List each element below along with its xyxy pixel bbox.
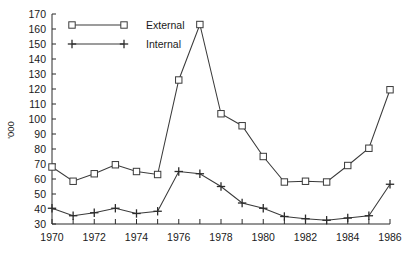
data-point-marker (197, 21, 203, 27)
y-tick-label: 160 (28, 23, 46, 35)
data-point-marker (259, 204, 267, 212)
x-tick-label: 1976 (167, 231, 191, 243)
x-axis-group: 197019721974197619781980198219841986 (40, 219, 402, 243)
series-line-external (52, 25, 390, 183)
data-point-marker (153, 207, 161, 215)
y-tick-label: 80 (34, 143, 46, 155)
y-tick-label: 70 (34, 158, 46, 170)
data-point-marker (49, 164, 55, 170)
data-point-marker (196, 170, 204, 178)
data-point-marker (132, 209, 140, 217)
data-point-marker (176, 77, 182, 83)
data-point-marker (387, 87, 393, 93)
series-group (48, 21, 394, 224)
data-point-marker (90, 209, 98, 217)
chart-canvas: 30405060708090100110120130140150160170 1… (0, 0, 402, 270)
y-tick-label: 30 (34, 218, 46, 230)
y-tick-label: 110 (29, 98, 46, 110)
x-tick-label: 1986 (378, 231, 402, 243)
legend-label: External (146, 19, 185, 31)
data-point-marker (239, 123, 245, 129)
data-point-marker (260, 153, 266, 159)
y-tick-label: 90 (34, 128, 46, 140)
data-point-marker (280, 212, 288, 220)
y-tick-label: 120 (28, 83, 46, 95)
data-point-marker (175, 167, 183, 175)
x-tick-label: 1974 (125, 231, 149, 243)
data-point-marker (386, 180, 394, 188)
data-point-marker (323, 179, 329, 185)
data-point-marker (218, 111, 224, 117)
data-point-marker (344, 214, 352, 222)
y-tick-label: 130 (28, 68, 46, 80)
legend-marker (120, 40, 128, 48)
legend-marker (69, 22, 75, 28)
data-point-marker (366, 145, 372, 151)
legend-entry-internal: Internal (68, 38, 181, 50)
y-axis-label: '000 (5, 121, 16, 139)
data-point-marker (302, 178, 308, 184)
x-tick-label: 1982 (294, 231, 318, 243)
data-point-marker (70, 178, 76, 184)
data-point-marker (111, 204, 119, 212)
y-tick-label: 60 (34, 173, 46, 185)
x-tick-label: 1984 (336, 231, 360, 243)
legend-group: ExternalInternal (68, 19, 185, 50)
data-point-marker (112, 162, 118, 168)
legend-marker (121, 22, 127, 28)
legend-entry-external: External (69, 19, 185, 31)
data-point-marker (154, 171, 160, 177)
data-point-marker (69, 212, 77, 220)
data-point-marker (48, 204, 56, 212)
y-tick-label: 140 (28, 53, 46, 65)
legend-label: Internal (146, 38, 181, 50)
series-internal (48, 167, 394, 224)
x-tick-label: 1980 (252, 231, 276, 243)
y-tick-label: 150 (28, 38, 46, 50)
line-chart: 30405060708090100110120130140150160170 1… (0, 0, 402, 270)
y-tick-label: 50 (34, 188, 46, 200)
data-point-marker (133, 168, 139, 174)
series-external (49, 21, 393, 185)
x-tick-label: 1978 (209, 231, 233, 243)
y-tick-label: 40 (34, 203, 46, 215)
x-tick-label: 1972 (83, 231, 107, 243)
y-tick-label: 100 (28, 113, 46, 125)
data-point-marker (281, 179, 287, 185)
legend-marker (68, 40, 76, 48)
data-point-marker (301, 215, 309, 223)
x-tick-label: 1970 (40, 231, 64, 243)
data-point-marker (345, 162, 351, 168)
data-point-marker (322, 216, 330, 224)
y-axis-group: 30405060708090100110120130140150160170 (28, 8, 56, 230)
series-line-internal (52, 172, 390, 221)
y-tick-label: 170 (28, 8, 46, 20)
data-point-marker (91, 171, 97, 177)
data-point-marker (365, 212, 373, 220)
